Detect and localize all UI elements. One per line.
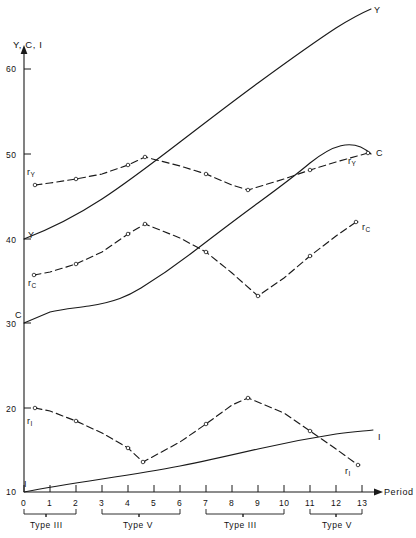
marker-rc-p2 (74, 262, 78, 266)
axis-layer (21, 45, 383, 517)
marker-rc-peak1 (143, 222, 147, 226)
series-path-i (24, 430, 373, 492)
marker-ry-trough (246, 188, 250, 192)
marker-ri-peak (246, 396, 250, 400)
x-axis-arrowhead (374, 489, 383, 496)
marker-ry-peak1 (143, 155, 147, 159)
series-path-y (24, 9, 371, 239)
marker-ri-start (33, 406, 37, 410)
marker-ri-p7 (204, 422, 208, 426)
marker-ry-p4 (126, 163, 130, 167)
marker-ry-p7 (204, 172, 208, 176)
series-layer (24, 9, 373, 492)
bracket-type-iii-1 (24, 509, 76, 517)
marker-rc-trough (256, 294, 260, 298)
bracket-type-iii-2 (206, 509, 284, 517)
chart-canvas (0, 0, 416, 538)
marker-ry-start (33, 183, 37, 187)
marker-rc-end (354, 220, 358, 224)
y-axis-arrowhead (21, 45, 28, 54)
marker-ry-p11 (308, 168, 312, 172)
marker-ri-trough (141, 460, 145, 464)
marker-ry-end (366, 151, 370, 155)
series-path-ry (35, 153, 368, 190)
figure-root: Y, C, I Period 60 50 40 30 20 10 0 1 2 3… (0, 0, 416, 538)
marker-ri-p2 (74, 419, 78, 423)
marker-rc-p7 (204, 250, 208, 254)
marker-rc-start (32, 273, 36, 277)
marker-ri-p11 (308, 429, 312, 433)
data-point-markers (32, 151, 370, 467)
x-tick-marks (24, 485, 362, 492)
bracket-layer (24, 509, 362, 517)
marker-rc-p4 (126, 232, 130, 236)
marker-ri-end (356, 463, 360, 467)
marker-ry-p2 (74, 177, 78, 181)
marker-ri-p4 (126, 446, 130, 450)
bracket-type-v-2 (310, 509, 362, 517)
marker-rc-p11 (308, 254, 312, 258)
bracket-type-v-1 (102, 509, 180, 517)
series-path-rc (34, 222, 356, 296)
